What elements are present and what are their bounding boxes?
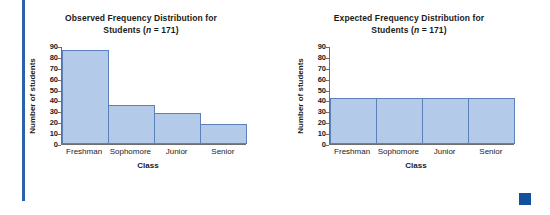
y-axis-tick-label: 0 [42,141,58,149]
y-axis-tick-mark [325,101,329,102]
x-axis-tick-labels: FreshmanSophomoreJuniorSenior [329,147,514,156]
bar-series [62,47,246,144]
plot-area [329,47,514,145]
x-axis-tick-label: Sophomore [375,147,421,156]
y-axis-tick-mark [57,47,61,48]
chart-title-line2-suffix: = 171) [419,25,446,35]
chart-observed-frequency: Observed Frequency Distribution for Stud… [0,0,275,190]
x-axis-tick-label: Junior [422,147,468,156]
chart-title-line1: Expected Frequency Distribution for [334,13,484,23]
y-axis-tick-label: 90 [310,43,326,51]
y-axis-tick-label: 30 [42,109,58,117]
x-axis-tick-label: Junior [154,147,200,156]
y-axis-tick-label: 70 [310,65,326,73]
y-axis-tick-label: 60 [310,76,326,84]
y-axis-tick-mark [57,58,61,59]
y-axis-tick-mark [325,69,329,70]
bar [468,98,515,144]
y-axis-tick-mark [325,134,329,135]
y-axis-tick-mark [57,112,61,113]
y-axis-tick-label: 40 [42,98,58,106]
bar-series [330,47,514,144]
chart-title: Expected Frequency Distribution for Stud… [298,12,520,36]
x-axis-title: Class [316,161,516,170]
x-axis-tick-label: Sophomore [107,147,153,156]
chart-title-line2-suffix: = 171) [151,25,178,35]
y-axis-tick-labels: 0102030405060708090 [310,44,326,148]
bar [108,105,155,144]
bar [376,98,423,144]
y-axis-tick-label: 80 [310,54,326,62]
y-axis-tick-label: 10 [310,130,326,138]
y-axis-tick-mark [57,69,61,70]
chart-title-line1: Observed Frequency Distribution for [65,13,217,23]
chart-title-line2-prefix: Students ( [103,25,146,35]
y-axis-tick-mark [325,58,329,59]
y-axis-tick-mark [57,80,61,81]
bar [422,98,469,144]
y-axis-tick-mark [325,47,329,48]
bar [62,50,109,144]
y-axis-tick-label: 10 [42,130,58,138]
y-axis-tick-mark [325,80,329,81]
y-axis-tick-label: 50 [42,87,58,95]
y-axis-tick-mark [57,101,61,102]
y-axis-tick-label: 40 [310,98,326,106]
x-axis-tick-label: Senior [468,147,514,156]
y-axis-tick-labels: 0102030405060708090 [42,44,58,148]
y-axis-tick-label: 0 [310,141,326,149]
y-axis-tick-label: 30 [310,109,326,117]
x-axis-line [61,144,246,145]
y-axis-tick-mark [325,145,329,146]
y-axis-tick-label: 90 [42,43,58,51]
chart-expected-frequency: Expected Frequency Distribution for Stud… [268,0,543,190]
chart-title: Observed Frequency Distribution for Stud… [30,12,252,36]
plot-area [61,47,246,145]
y-axis-title: Number of students [294,48,307,144]
y-axis-title: Number of students [26,48,39,144]
x-axis-tick-label: Senior [200,147,246,156]
bar [330,98,377,144]
x-axis-title: Class [48,161,248,170]
y-axis-tick-mark [57,134,61,135]
chart-title-line2-prefix: Students ( [371,25,414,35]
x-axis-tick-labels: FreshmanSophomoreJuniorSenior [61,147,246,156]
y-axis-tick-label: 20 [310,119,326,127]
y-axis-tick-label: 50 [310,87,326,95]
bar [200,124,247,144]
y-axis-tick-label: 20 [42,119,58,127]
y-axis-tick-mark [57,91,61,92]
y-axis-tick-mark [57,145,61,146]
y-axis-tick-mark [57,123,61,124]
y-axis-tick-label: 70 [42,65,58,73]
corner-marker [519,193,531,205]
y-axis-tick-mark [325,123,329,124]
y-axis-tick-label: 80 [42,54,58,62]
y-axis-tick-label: 60 [42,76,58,84]
bar [154,113,201,144]
x-axis-tick-label: Freshman [61,147,107,156]
y-axis-tick-mark [325,91,329,92]
y-axis-tick-mark [325,112,329,113]
x-axis-tick-label: Freshman [329,147,375,156]
x-axis-line [329,144,514,145]
